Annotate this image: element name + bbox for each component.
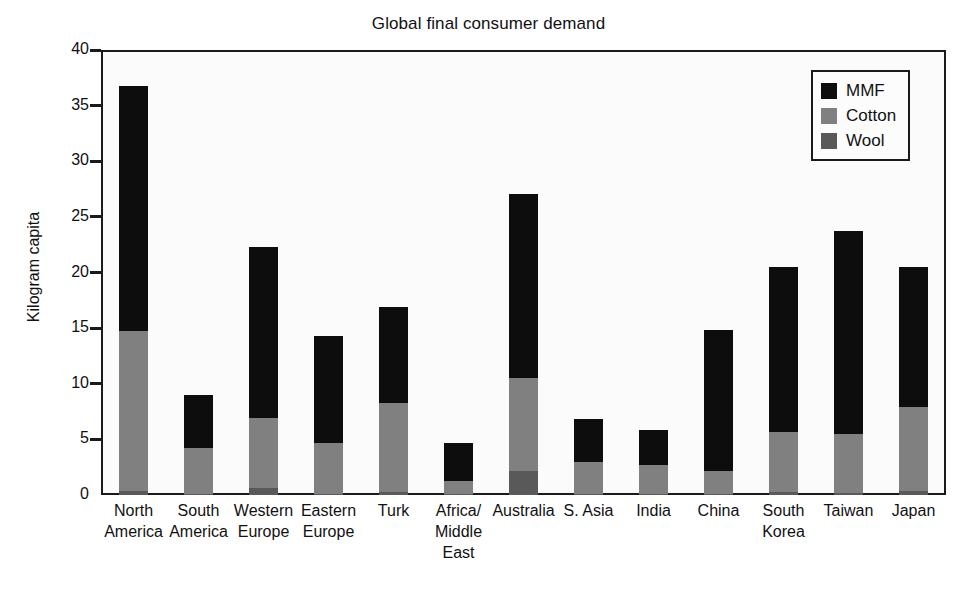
x-tick-label-line: North: [101, 500, 166, 521]
bar-stack: [899, 267, 929, 495]
y-tick-label: 25: [71, 206, 89, 226]
x-tick-label-taiwan: Taiwan: [816, 500, 881, 521]
bar-segment-mmf-taiwan[interactable]: [834, 231, 864, 433]
bar-group-western-europe[interactable]: [249, 50, 279, 495]
bar-group-eastern-europe[interactable]: [314, 50, 344, 495]
bar-segment-wool-australia[interactable]: [509, 471, 539, 495]
bar-segment-mmf-china[interactable]: [704, 330, 734, 470]
bar-segment-wool-s-asia[interactable]: [574, 494, 604, 495]
bar-stack: [769, 267, 799, 495]
bar-group-south-america[interactable]: [184, 50, 214, 495]
bar-segment-cotton-eastern-europe[interactable]: [314, 443, 344, 494]
bar-stack: [704, 330, 734, 495]
x-tick-label-line: Australia: [491, 500, 556, 521]
bar-segment-cotton-south-korea[interactable]: [769, 432, 799, 492]
bar-segment-mmf-south-korea[interactable]: [769, 267, 799, 432]
x-tick-label-south-korea: SouthKorea: [751, 500, 816, 542]
x-tick-label-south-america: SouthAmerica: [166, 500, 231, 542]
x-tick-label-line: America: [101, 521, 166, 542]
bar-segment-cotton-north-america[interactable]: [119, 331, 149, 490]
bar-segment-mmf-india[interactable]: [639, 430, 669, 464]
bar-segment-wool-africa-middle-east[interactable]: [444, 494, 474, 495]
bar-group-india[interactable]: [639, 50, 669, 495]
x-tick-label-eastern-europe: EasternEurope: [296, 500, 361, 542]
bar-group-africa-middle-east[interactable]: [444, 50, 474, 495]
bar-stack: [639, 430, 669, 495]
legend-item-cotton[interactable]: Cotton: [821, 103, 896, 128]
bar-segment-wool-india[interactable]: [639, 494, 669, 495]
bar-stack: [574, 419, 604, 495]
bar-group-s-asia[interactable]: [574, 50, 604, 495]
x-tick-label-line: Japan: [881, 500, 946, 521]
bar-segment-wool-eastern-europe[interactable]: [314, 494, 344, 495]
x-tick-label-africa-middle-east: Africa/MiddleEast: [426, 500, 491, 563]
x-tick-label-turk: Turk: [361, 500, 426, 521]
y-tick-label: 30: [71, 150, 89, 170]
legend-item-mmf[interactable]: MMF: [821, 78, 896, 103]
chart-legend: MMFCottonWool: [811, 70, 910, 161]
wool-swatch: [821, 133, 837, 149]
bar-segment-mmf-australia[interactable]: [509, 194, 539, 379]
bar-segment-cotton-australia[interactable]: [509, 378, 539, 470]
bar-segment-mmf-s-asia[interactable]: [574, 419, 604, 461]
bar-stack: [444, 443, 474, 495]
bar-stack: [249, 247, 279, 495]
bar-segment-cotton-s-asia[interactable]: [574, 462, 604, 494]
bar-segment-cotton-turk[interactable]: [379, 403, 409, 492]
bar-group-australia[interactable]: [509, 50, 539, 495]
legend-label: Wool: [846, 131, 884, 150]
bar-segment-cotton-africa-middle-east[interactable]: [444, 481, 474, 495]
bar-segment-wool-north-america[interactable]: [119, 491, 149, 495]
x-tick-label-line: China: [686, 500, 751, 521]
chart-figure: Global final consumer demand Kilogram ca…: [0, 0, 977, 596]
cotton-swatch: [821, 108, 837, 124]
bar-segment-mmf-eastern-europe[interactable]: [314, 336, 344, 443]
y-tick-mark: [90, 49, 101, 52]
bar-segment-mmf-japan[interactable]: [899, 267, 929, 407]
legend-label: MMF: [846, 81, 885, 100]
y-tick-mark: [90, 327, 101, 330]
mmf-swatch: [821, 83, 837, 99]
bar-stack: [834, 231, 864, 495]
y-tick-mark: [90, 215, 101, 218]
x-tick-label-australia: Australia: [491, 500, 556, 521]
x-tick-label-line: Turk: [361, 500, 426, 521]
bar-stack: [509, 194, 539, 495]
x-tick-label-s-asia: S. Asia: [556, 500, 621, 521]
bar-segment-cotton-india[interactable]: [639, 465, 669, 494]
bar-segment-cotton-china[interactable]: [704, 471, 734, 494]
bar-segment-mmf-western-europe[interactable]: [249, 247, 279, 418]
bar-segment-wool-japan[interactable]: [899, 491, 929, 495]
bar-segment-mmf-south-america[interactable]: [184, 395, 214, 448]
bar-segment-cotton-japan[interactable]: [899, 407, 929, 490]
x-tick-label-line: Western: [231, 500, 296, 521]
x-axis-tick-labels: NorthAmericaSouthAmericaWesternEuropeEas…: [101, 500, 946, 592]
x-tick-label-line: Taiwan: [816, 500, 881, 521]
bar-segment-mmf-north-america[interactable]: [119, 86, 149, 332]
y-tick-label: 35: [71, 95, 89, 115]
bar-group-china[interactable]: [704, 50, 734, 495]
bar-segment-cotton-taiwan[interactable]: [834, 434, 864, 493]
bar-segment-cotton-south-america[interactable]: [184, 448, 214, 494]
bar-stack: [314, 336, 344, 495]
x-tick-label-line: Middle: [426, 521, 491, 542]
bar-segment-wool-south-korea[interactable]: [769, 492, 799, 495]
bar-group-north-america[interactable]: [119, 50, 149, 495]
y-tick-mark: [90, 160, 101, 163]
bar-segment-wool-china[interactable]: [704, 494, 734, 495]
bar-segment-mmf-africa-middle-east[interactable]: [444, 443, 474, 481]
x-tick-label-line: S. Asia: [556, 500, 621, 521]
bar-segment-mmf-turk[interactable]: [379, 307, 409, 403]
bar-group-turk[interactable]: [379, 50, 409, 495]
legend-item-wool[interactable]: Wool: [821, 128, 896, 153]
bar-segment-cotton-western-europe[interactable]: [249, 418, 279, 488]
bar-segment-wool-western-europe[interactable]: [249, 488, 279, 495]
bar-segment-wool-turk[interactable]: [379, 492, 409, 495]
bar-group-south-korea[interactable]: [769, 50, 799, 495]
bar-stack: [119, 86, 149, 495]
y-tick-label: 0: [80, 484, 89, 504]
y-tick-label: 15: [71, 317, 89, 337]
bar-segment-wool-taiwan[interactable]: [834, 493, 864, 495]
x-tick-label-line: Korea: [751, 521, 816, 542]
bar-segment-wool-south-america[interactable]: [184, 494, 214, 495]
